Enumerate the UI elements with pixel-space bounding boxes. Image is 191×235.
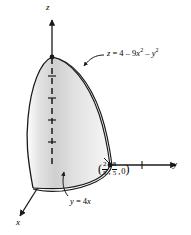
surface-equation-leader [84, 55, 104, 66]
surface-eq-equals: = [110, 48, 119, 58]
figure-root: z y x z = 4 – 9x2 – y2 y = 4x ( 2 5 , 8 … [0, 0, 191, 235]
surface-equation-label: z = 4 – 9x2 – y2 [107, 49, 158, 58]
x-axis-label: x [16, 218, 20, 227]
surface-eq-exponent-y: 2 [155, 47, 158, 53]
surface-eq-minus-2: – [143, 48, 152, 58]
plane-eq-equals: = [74, 196, 83, 206]
point-close-paren: ) [126, 163, 130, 175]
surface-eq-minus-1: – [124, 48, 133, 58]
z-axis-label: z [46, 3, 50, 12]
plane-eq-var: x [87, 196, 91, 206]
figure-drawing-canvas [0, 0, 191, 235]
point-coordinate-label: ( 2 5 , 8 5 , 0 ) [98, 161, 130, 178]
y-axis-label: y [173, 160, 177, 169]
plane-equation-label: y = 4x [70, 197, 91, 206]
apex-point-marker [50, 55, 55, 60]
